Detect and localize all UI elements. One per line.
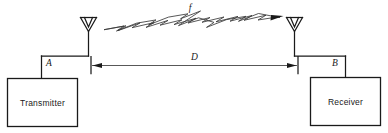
terminal-label-b: B <box>332 58 338 68</box>
radio-link-diagram: A Transmitter B Receiver <box>0 0 388 133</box>
wave-frequency-label: f <box>189 3 193 13</box>
figure-root: A Transmitter B Receiver <box>0 0 388 133</box>
antenna-transmit-icon <box>81 18 97 32</box>
feedline-receive <box>295 32 346 78</box>
antenna-receive-icon <box>287 18 303 32</box>
transmitter-label: Transmitter <box>20 98 65 108</box>
receiver-label: Receiver <box>328 97 363 107</box>
terminal-label-a: A <box>45 58 52 68</box>
feedline-transmit <box>42 32 89 79</box>
distance-label: D <box>190 52 198 62</box>
radio-wave-arrow <box>104 11 284 31</box>
